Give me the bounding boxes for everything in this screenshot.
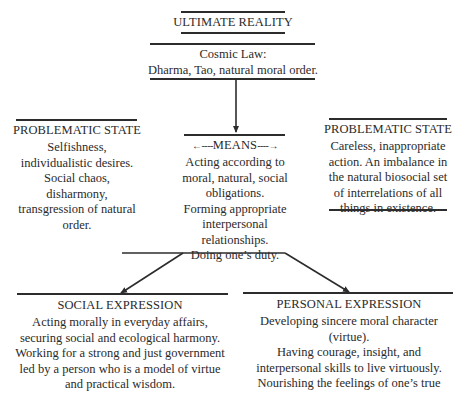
personal-expression-description: Developing sincere moral character (virt…	[230, 314, 468, 392]
problematic-right-top-rule	[329, 118, 447, 120]
problematic-left-description: Selfishness, individualistic desires. So…	[6, 140, 148, 233]
problematic-right-description: Careless, inappropriate action. An imbal…	[318, 139, 458, 217]
cosmic-law-line: Dharma, Tao, natural moral order.	[140, 63, 326, 79]
problematic-left-top-rule	[16, 119, 137, 121]
personal-expression-title: PERSONAL EXPRESSION	[230, 297, 468, 313]
cosmic-law-bottom-rule	[150, 78, 315, 80]
social-expression-top-rule	[17, 293, 228, 295]
problematic-left-line: transgression of natural	[6, 202, 148, 218]
social-expression-line: led by a person who is a model of virtue	[0, 362, 240, 378]
personal-expression-line: Developing sincere moral character	[230, 314, 468, 330]
means-line: Forming appropriate	[160, 202, 310, 218]
problematic-left-line: disharmony,	[6, 187, 148, 203]
means-description: Acting according to moral, natural, soci…	[160, 155, 310, 264]
means-top-rule	[184, 134, 285, 136]
problematic-left-line: order.	[6, 218, 148, 234]
personal-expression-line: Having courage, insight, and	[230, 345, 468, 361]
cosmic-law-line: Cosmic Law:	[140, 47, 326, 63]
problematic-right-title: PROBLEMATIC STATE	[318, 122, 458, 138]
means-line: moral, natural, social	[160, 171, 310, 187]
social-expression-line: and practical wisdom.	[0, 377, 240, 393]
means-line: obligations.	[160, 186, 310, 202]
social-expression-title: SOCIAL EXPRESSION	[0, 298, 240, 314]
social-expression-line: Acting morally in everyday affairs,	[0, 315, 240, 331]
personal-expression-top-rule	[243, 292, 453, 294]
cosmic-law-top-rule	[150, 43, 315, 45]
problematic-left-line: Social chaos,	[6, 171, 148, 187]
means-line: interpersonal	[160, 217, 310, 233]
problematic-left-title: PROBLEMATIC STATE	[6, 123, 148, 139]
means-line: Doing one’s duty.	[160, 248, 310, 264]
ultimate-reality-top-rule	[181, 11, 285, 13]
means-title-row: ←----MEANS----→	[174, 138, 296, 154]
arrow-left-dashed-icon: ←----	[192, 140, 213, 151]
personal-expression-line: (virtue).	[230, 330, 468, 346]
means-title: MEANS	[213, 138, 257, 152]
problematic-left-line: individualistic desires.	[6, 156, 148, 172]
social-expression-line: securing social and ecological harmony.	[0, 331, 240, 347]
arrow-right-dashed-icon: ----→	[257, 140, 278, 151]
problematic-right-line: Careless, inappropriate	[318, 139, 458, 155]
social-expression-description: Acting morally in everyday affairs, secu…	[0, 315, 240, 393]
social-expression-line: Working for a strong and just government	[0, 346, 240, 362]
personal-expression-line: interpersonal skills to live virtuously.	[230, 361, 468, 377]
problematic-left-line: Selfishness,	[6, 140, 148, 156]
personal-expression-line: Nourishing the feelings of one’s true	[230, 376, 468, 392]
problematic-right-line: of interrelations of all	[318, 186, 458, 202]
problematic-right-line: the natural biosocial set	[318, 170, 458, 186]
problematic-right-line: action. An imbalance in	[318, 155, 458, 171]
problematic-right-bottom-rule	[329, 209, 447, 211]
ultimate-reality-bottom-rule	[181, 32, 285, 34]
means-line: relationships.	[160, 233, 310, 249]
cosmic-law-block: Cosmic Law: Dharma, Tao, natural moral o…	[140, 47, 326, 78]
means-line: Acting according to	[160, 155, 310, 171]
ultimate-reality-title: ULTIMATE REALITY	[160, 15, 306, 31]
